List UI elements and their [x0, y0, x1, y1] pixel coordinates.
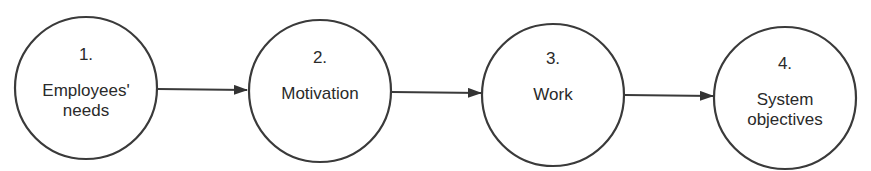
- node-1-label-line2: needs: [14, 101, 158, 121]
- node-1-number: 1.: [14, 45, 158, 65]
- node-3-label-line1: Work: [481, 85, 625, 105]
- arrow-2-to-3: [392, 92, 481, 93]
- node-3: 3. Work: [481, 49, 625, 105]
- node-3-number: 3.: [481, 49, 625, 69]
- node-1-label-line1: Employees': [14, 81, 158, 101]
- node-4-label-line2: objectives: [713, 110, 857, 130]
- node-2: 2. Motivation: [248, 48, 392, 104]
- node-4-number: 4.: [713, 54, 857, 74]
- node-2-label-line1: Motivation: [248, 84, 392, 104]
- arrow-3-to-4: [625, 95, 713, 96]
- node-4-label-line1: System: [713, 90, 857, 110]
- node-1: 1. Employees' needs: [14, 45, 158, 121]
- node-2-number: 2.: [248, 48, 392, 68]
- arrow-1-to-2: [158, 89, 247, 90]
- node-4: 4. System objectives: [713, 54, 857, 130]
